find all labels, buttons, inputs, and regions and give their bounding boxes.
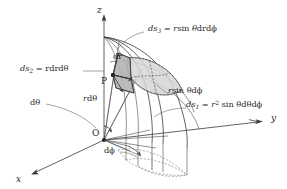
label-ds3: ds3 = rsin θdrdϕ — [148, 24, 217, 35]
axis-label-x: x — [16, 175, 21, 184]
ds3-expr-diff: drdϕ — [197, 23, 217, 33]
label-r-sin-theta-dphi: rsin θdϕ — [168, 86, 202, 94]
axis-y — [104, 119, 263, 140]
origin-label: O — [92, 129, 99, 138]
label-dphi: dϕ — [104, 146, 115, 154]
ds3-subscript: 3 — [157, 28, 161, 34]
label-ds1: ds1 = r2 sin θdθdϕ — [186, 100, 262, 111]
axis-label-y: y — [271, 114, 276, 123]
ds3-equals: = — [164, 23, 171, 33]
label-dtheta: dθ — [30, 98, 40, 106]
label-dr: dr — [113, 52, 122, 60]
ds2-equals: = — [36, 63, 43, 73]
ds1-equals: = — [202, 99, 209, 109]
label-r-dtheta: rdθ — [83, 94, 97, 102]
ds1-exponent: 2 — [215, 100, 219, 106]
point-p-label: P — [101, 77, 107, 86]
label-ds2: ds2 = rdrdθ — [20, 64, 69, 75]
ds2-expr: rdrdθ — [45, 63, 68, 73]
rdtheta-rest: dθ — [87, 93, 97, 103]
rsin-rest: θdϕ — [187, 85, 203, 95]
ds3-expr-sin: sin — [177, 23, 189, 33]
projection-drop-lines — [126, 136, 187, 175]
axis-x — [31, 140, 104, 175]
ds2-subscript: 2 — [29, 68, 33, 74]
diagram-canvas — [0, 0, 287, 189]
ds1-subscript: 1 — [195, 104, 199, 110]
ds1-expr-rest: θdθdϕ — [236, 99, 262, 109]
rsin-sin: sin — [172, 85, 184, 95]
ds1-expr-sin: sin — [222, 99, 234, 109]
spherical-coordinates-diagram: z y x O P ds3 = rsin θdrdϕ ds2 = rdrdθ d… — [0, 0, 287, 189]
axis-label-z: z — [97, 6, 102, 15]
